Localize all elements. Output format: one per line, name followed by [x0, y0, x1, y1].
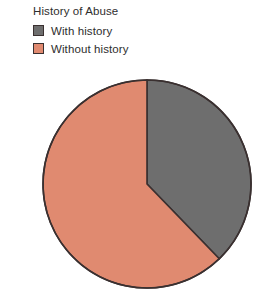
square-swatch-icon — [33, 25, 44, 36]
legend-title: History of Abuse — [33, 4, 233, 18]
legend-item-without-history[interactable]: Without history — [33, 40, 233, 57]
legend-item-label: With history — [51, 24, 112, 38]
legend-item-label: Without history — [51, 42, 129, 56]
square-swatch-icon — [33, 43, 44, 54]
legend-item-with-history[interactable]: With history — [33, 22, 233, 39]
pie-chart-figure: History of Abuse With history Without hi… — [0, 0, 266, 304]
pie-slice-group — [43, 80, 251, 288]
chart-legend: History of Abuse With history Without hi… — [33, 4, 233, 58]
